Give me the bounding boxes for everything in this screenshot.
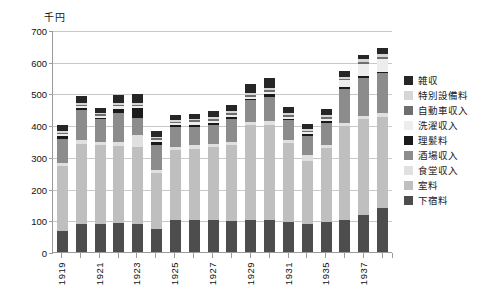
bar-segment bbox=[170, 127, 181, 147]
x-axis-tick-mark bbox=[155, 253, 156, 258]
bar-segment bbox=[339, 126, 350, 221]
bar-column bbox=[298, 31, 317, 252]
stacked-bar bbox=[358, 55, 369, 252]
bar-column bbox=[354, 31, 373, 252]
bar-segment bbox=[245, 125, 256, 220]
legend-item[interactable]: 室料 bbox=[404, 181, 488, 191]
stacked-bar bbox=[226, 105, 237, 252]
y-axis-tick-label: 200 bbox=[31, 184, 47, 195]
x-axis-tick-label: 1921 bbox=[94, 262, 105, 285]
stacked-bar bbox=[245, 84, 256, 252]
bar-segment bbox=[76, 110, 87, 140]
bar-segment bbox=[57, 166, 68, 231]
bar-segment bbox=[170, 220, 181, 252]
bar-segment bbox=[377, 59, 388, 72]
x-axis-tick-mark bbox=[231, 253, 232, 258]
bar-segment bbox=[302, 161, 313, 224]
bar-column bbox=[260, 31, 279, 252]
bar-segment bbox=[358, 78, 369, 116]
plot-area: 0100200300400500600700 bbox=[52, 31, 392, 253]
bar-segment bbox=[264, 97, 275, 122]
stacked-bar bbox=[170, 115, 181, 252]
legend-label: 下宿料 bbox=[418, 196, 448, 206]
legend-item[interactable]: 下宿料 bbox=[404, 196, 488, 206]
bar-segment bbox=[302, 224, 313, 252]
bar-segment bbox=[283, 222, 294, 252]
bar-column bbox=[72, 31, 91, 252]
x-axis-tick-mark bbox=[288, 253, 289, 258]
bar-segment bbox=[358, 215, 369, 252]
legend-label: 雑収 bbox=[418, 76, 438, 86]
bar-column bbox=[317, 31, 336, 252]
bar-segment bbox=[377, 48, 388, 55]
bar-segment bbox=[113, 113, 124, 142]
legend-item[interactable]: 雑収 bbox=[404, 76, 488, 86]
bar-segment bbox=[358, 119, 369, 214]
stacked-bar bbox=[302, 124, 313, 252]
legend-item[interactable]: 食堂収入 bbox=[404, 166, 488, 176]
x-axis-tick: 1935 bbox=[316, 253, 335, 305]
x-axis-tick bbox=[335, 253, 354, 305]
legend-swatch-icon bbox=[404, 181, 413, 190]
bar-segment bbox=[377, 73, 388, 113]
bar-series-group bbox=[53, 31, 392, 252]
x-axis-tick-label: 1925 bbox=[169, 262, 180, 285]
bar-segment bbox=[245, 100, 256, 122]
x-axis-tick: 1927 bbox=[203, 253, 222, 305]
bar-column bbox=[166, 31, 185, 252]
stacked-bar bbox=[339, 71, 350, 252]
bar-segment bbox=[132, 108, 143, 118]
y-axis-tick-label: 300 bbox=[31, 152, 47, 163]
legend-swatch-icon bbox=[404, 121, 413, 130]
bar-segment bbox=[151, 229, 162, 252]
bar-column bbox=[279, 31, 298, 252]
legend-label: 食堂収入 bbox=[418, 166, 458, 176]
legend-swatch-icon bbox=[404, 196, 413, 205]
y-axis-unit-label: 千円 bbox=[44, 9, 65, 24]
x-axis-tick: 1937 bbox=[354, 253, 373, 305]
bar-segment bbox=[339, 89, 350, 122]
legend-item[interactable]: 自動車収入 bbox=[404, 106, 488, 116]
bar-column bbox=[91, 31, 110, 252]
legend-item[interactable]: 洗濯収入 bbox=[404, 121, 488, 131]
bar-segment bbox=[76, 144, 87, 224]
bar-segment bbox=[283, 120, 294, 140]
bar-segment bbox=[189, 149, 200, 220]
bar-column bbox=[373, 31, 392, 252]
legend-item[interactable]: 理髪料 bbox=[404, 136, 488, 146]
bar-segment bbox=[113, 95, 124, 103]
bar-segment bbox=[151, 145, 162, 170]
stacked-bar bbox=[57, 125, 68, 252]
x-axis-tick-label: 1931 bbox=[283, 262, 294, 285]
bar-column bbox=[335, 31, 354, 252]
bar-segment bbox=[95, 145, 106, 224]
legend-swatch-icon bbox=[404, 106, 413, 115]
bar-segment bbox=[283, 143, 294, 222]
bar-segment bbox=[208, 147, 219, 219]
bar-segment bbox=[208, 220, 219, 252]
x-axis-tick: 1931 bbox=[279, 253, 298, 305]
bar-column bbox=[185, 31, 204, 252]
chart-legend: 雑収特別設備料自動車収入洗濯収入理髪料酒場収入食堂収入室料下宿料 bbox=[404, 76, 488, 206]
x-axis-tick-mark bbox=[136, 253, 137, 258]
legend-swatch-icon bbox=[404, 91, 413, 100]
x-axis-tick-label: 1937 bbox=[358, 262, 369, 285]
stacked-bar bbox=[321, 109, 332, 252]
legend-item[interactable]: 特別設備料 bbox=[404, 91, 488, 101]
x-axis-tick-mark bbox=[99, 253, 100, 258]
y-axis-tick-label: 100 bbox=[31, 216, 47, 227]
x-axis-tick-mark bbox=[80, 253, 81, 258]
legend-label: 洗濯収入 bbox=[418, 121, 458, 131]
x-axis-tick bbox=[222, 253, 241, 305]
legend-label: 室料 bbox=[418, 181, 438, 191]
bar-column bbox=[53, 31, 72, 252]
bar-segment bbox=[377, 208, 388, 252]
bar-segment bbox=[321, 148, 332, 222]
x-axis-tick bbox=[109, 253, 128, 305]
x-axis-tick-mark bbox=[344, 253, 345, 258]
bar-segment bbox=[95, 119, 106, 142]
bar-segment bbox=[132, 94, 143, 103]
stacked-bar bbox=[132, 94, 143, 252]
legend-swatch-icon bbox=[404, 151, 413, 160]
legend-item[interactable]: 酒場収入 bbox=[404, 151, 488, 161]
